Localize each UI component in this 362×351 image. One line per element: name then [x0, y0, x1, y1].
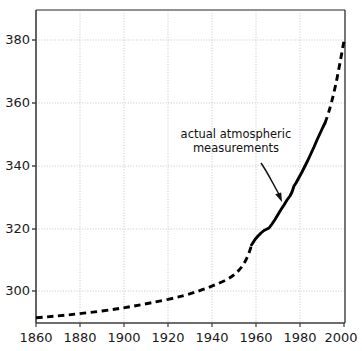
xtick-label-1940: 1940	[189, 330, 235, 345]
series-projected-trend	[325, 41, 344, 123]
annotation-line-1: actual atmospheric	[173, 128, 299, 142]
ytick-label-380: 380	[0, 32, 30, 47]
xtick-label-1980: 1980	[277, 330, 323, 345]
xtick-label-2000: 2000	[318, 330, 362, 345]
axis-frame	[36, 10, 345, 323]
ytick-label-300: 300	[0, 283, 30, 298]
horizontal-gridlines	[36, 40, 345, 291]
vertical-gridlines	[80, 10, 300, 323]
plot-area	[0, 0, 362, 351]
annotation-arrowhead	[275, 193, 282, 202]
xtick-label-1860: 1860	[13, 330, 59, 345]
annotation-arrow	[261, 163, 280, 196]
ytick-label-320: 320	[0, 221, 30, 236]
ytick-label-340: 340	[0, 158, 30, 173]
chart-figure: 380 360 340 320 300 1860 1880 1900 1920 …	[0, 0, 362, 351]
xtick-label-1900: 1900	[101, 330, 147, 345]
annotation-line-2: measurements	[173, 142, 299, 156]
ytick-label-360: 360	[0, 95, 30, 110]
annotation-text: actual atmospheric measurements	[173, 128, 299, 155]
series-ice-core-proxy	[36, 245, 252, 318]
xtick-label-1880: 1880	[57, 330, 103, 345]
xtick-label-1920: 1920	[145, 330, 191, 345]
xtick-label-1960: 1960	[233, 330, 279, 345]
